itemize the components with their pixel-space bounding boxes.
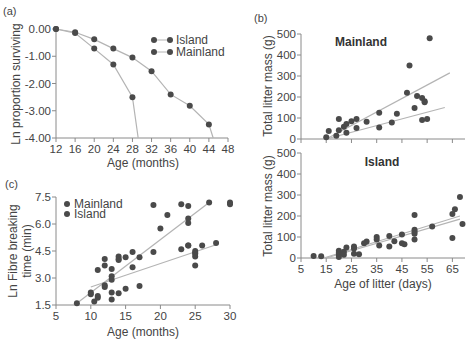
- panel-c-label: (c): [5, 178, 18, 190]
- svg-text:25: 25: [189, 310, 202, 322]
- svg-text:6.0: 6.0: [35, 218, 51, 230]
- c-legend-island: Island: [74, 207, 106, 221]
- svg-text:40: 40: [183, 143, 196, 155]
- svg-text:30: 30: [224, 310, 237, 322]
- c-legend: Mainland Island: [64, 197, 123, 221]
- svg-text:15: 15: [119, 310, 132, 322]
- svg-text:0.00: 0.00: [29, 23, 51, 35]
- panel-b-label: (b): [254, 12, 267, 24]
- svg-text:65: 65: [446, 263, 459, 275]
- svg-text:500: 500: [277, 147, 296, 159]
- svg-text:500: 500: [277, 28, 296, 40]
- svg-text:55: 55: [421, 263, 434, 275]
- svg-text:-4.00: -4.00: [25, 132, 51, 144]
- a-y-axis-label: Ln proportion surviving: [9, 23, 23, 144]
- c-x-axis-label: Age (months): [107, 325, 179, 339]
- svg-text:100: 100: [277, 112, 296, 124]
- a-legend: Island Mainland: [151, 33, 225, 59]
- svg-text:24: 24: [107, 143, 120, 155]
- b-top-title: Mainland: [335, 35, 387, 49]
- svg-text:35: 35: [370, 263, 383, 275]
- svg-text:300: 300: [277, 70, 296, 82]
- svg-text:1.5: 1.5: [35, 299, 51, 311]
- svg-text:4.5: 4.5: [35, 245, 51, 257]
- figure: (a) (b) (c) 0.00-1.00-2.00-3.00-4.001216…: [0, 0, 473, 348]
- svg-text:10: 10: [84, 310, 97, 322]
- svg-text:-3.00: -3.00: [25, 105, 51, 117]
- a-legend-mainland: Mainland: [176, 45, 225, 59]
- b-x-axis-label: Age of litter (days): [334, 277, 431, 291]
- svg-text:16: 16: [69, 143, 82, 155]
- a-x-axis-label: Age (months): [107, 156, 179, 170]
- b-bottom-title: Island: [365, 155, 400, 169]
- svg-text:15: 15: [320, 263, 333, 275]
- svg-text:200: 200: [277, 210, 296, 222]
- svg-text:28: 28: [126, 143, 139, 155]
- b-bottom-y-axis-label: Total litter mass (g): [261, 155, 275, 256]
- svg-text:0: 0: [290, 252, 296, 264]
- svg-text:-2.00: -2.00: [25, 78, 51, 90]
- svg-text:7.5: 7.5: [35, 191, 51, 203]
- svg-text:200: 200: [277, 91, 296, 103]
- svg-text:5: 5: [298, 263, 304, 275]
- svg-text:300: 300: [277, 189, 296, 201]
- svg-text:36: 36: [164, 143, 177, 155]
- svg-text:100: 100: [277, 231, 296, 243]
- chart-fibre-breaking: 7.56.04.53.01.551015202530: [35, 191, 236, 322]
- svg-text:3.0: 3.0: [35, 272, 51, 284]
- svg-text:0: 0: [290, 133, 296, 145]
- svg-text:20: 20: [154, 310, 167, 322]
- svg-text:44: 44: [202, 143, 215, 155]
- svg-text:48: 48: [222, 143, 235, 155]
- svg-text:-1.00: -1.00: [25, 50, 51, 62]
- panel-a-label: (a): [3, 5, 16, 17]
- svg-text:400: 400: [277, 168, 296, 180]
- svg-text:400: 400: [277, 49, 296, 61]
- svg-text:32: 32: [145, 143, 158, 155]
- svg-text:25: 25: [345, 263, 358, 275]
- b-top-y-axis-label: Total litter mass (g): [261, 35, 275, 136]
- svg-text:45: 45: [396, 263, 409, 275]
- svg-text:12: 12: [50, 143, 63, 155]
- c-y-axis-label-line1: Ln Fibre breaking: [6, 204, 20, 297]
- svg-text:5: 5: [53, 310, 59, 322]
- c-y-axis-label-line2: time (min): [20, 224, 34, 277]
- svg-text:20: 20: [88, 143, 101, 155]
